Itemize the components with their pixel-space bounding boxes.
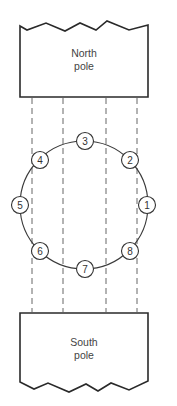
- north-pole: North pole: [20, 21, 148, 97]
- conductors: 1 2 3 4 5 6 7 8: [12, 133, 156, 278]
- conductor-7-label: 7: [82, 264, 88, 275]
- conductor-2: 2: [122, 152, 139, 169]
- flux-lines: [32, 98, 137, 312]
- conductor-6: 6: [32, 243, 49, 260]
- conductor-1-label: 1: [144, 200, 150, 211]
- north-pole-label-line1: North: [71, 47, 97, 59]
- south-pole-label-line1: South: [70, 336, 98, 348]
- conductor-4-label: 4: [37, 155, 43, 166]
- conductor-3: 3: [77, 133, 94, 150]
- conductor-8: 8: [122, 243, 139, 260]
- north-pole-block: [20, 21, 148, 97]
- conductor-1: 1: [139, 197, 156, 214]
- south-pole-label-line2: pole: [74, 349, 94, 361]
- conductor-5: 5: [12, 197, 29, 214]
- conductor-8-label: 8: [127, 246, 133, 257]
- conductor-4: 4: [32, 152, 49, 169]
- conductor-6-label: 6: [37, 246, 43, 257]
- north-pole-label-line2: pole: [74, 60, 94, 72]
- south-pole: South pole: [20, 313, 148, 392]
- conductor-2-label: 2: [127, 155, 133, 166]
- conductor-7: 7: [77, 261, 94, 278]
- conductor-3-label: 3: [82, 136, 88, 147]
- armature-diagram: North pole South pole 1 2 3 4 5: [0, 0, 177, 406]
- conductor-5-label: 5: [17, 200, 23, 211]
